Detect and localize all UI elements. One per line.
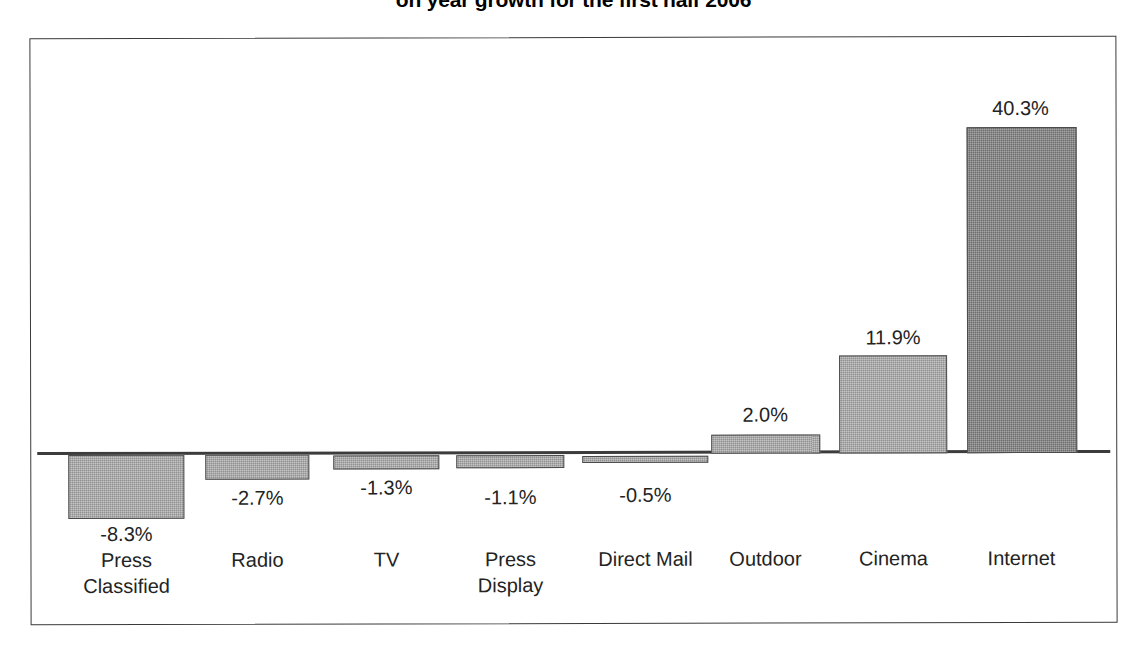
category-label-line-1: Press [485, 548, 536, 570]
bar-group-tv [332, 38, 439, 623]
category-label-radio: Radio [184, 547, 330, 573]
value-label-press-display: -1.1% [437, 486, 583, 508]
bar-cinema[interactable] [839, 355, 947, 453]
value-label-direct-mail: -0.5% [572, 484, 718, 506]
bar-internet[interactable] [967, 127, 1078, 453]
category-label-line-1: Radio [231, 549, 283, 571]
bar-press-display[interactable] [456, 455, 564, 468]
category-label-outdoor: Outdoor [692, 545, 838, 571]
bar-press-classified[interactable] [68, 455, 184, 519]
category-label-line-2: Display [438, 572, 584, 598]
category-label-line-1: Direct Mail [598, 548, 692, 570]
category-label-line-1: Cinema [859, 547, 928, 569]
category-label-line-1: Outdoor [729, 548, 801, 570]
bar-group-direct-mail [581, 38, 708, 623]
bar-group-outdoor [710, 37, 820, 622]
value-label-cinema: 11.9% [820, 326, 966, 348]
category-label-internet: Internet [948, 545, 1094, 571]
value-label-press-classified: -8.3% [53, 523, 199, 545]
bar-group-internet [966, 37, 1077, 622]
bar-tv[interactable] [333, 455, 439, 469]
category-label-cinema: Cinema [820, 545, 966, 571]
bar-group-press-display [455, 38, 564, 623]
category-label-press-display: Press Display [437, 546, 583, 598]
bar-group-radio [204, 39, 309, 624]
plot-area: -8.3% -2.7% -1.3% -1.1% -0.5% 2.0% 11.9%… [30, 37, 1116, 624]
bar-direct-mail[interactable] [582, 456, 708, 463]
chart-plot-frame: -8.3% -2.7% -1.3% -1.1% -0.5% 2.0% 11.9%… [29, 36, 1117, 625]
chart-title: on year growth for the first half 2006 [0, 0, 1147, 13]
category-label-line-2: Classified [54, 573, 200, 599]
category-label-line-1: Press [101, 549, 152, 571]
category-label-press-classified: Press Classified [53, 547, 199, 599]
value-label-radio: -2.7% [184, 487, 330, 509]
category-label-line-1: Internet [988, 547, 1056, 569]
bar-radio[interactable] [205, 455, 309, 480]
category-label-line-1: TV [374, 548, 400, 570]
bar-outdoor[interactable] [711, 434, 820, 453]
value-label-internet: 40.3% [948, 97, 1094, 119]
value-label-outdoor: 2.0% [692, 403, 838, 425]
